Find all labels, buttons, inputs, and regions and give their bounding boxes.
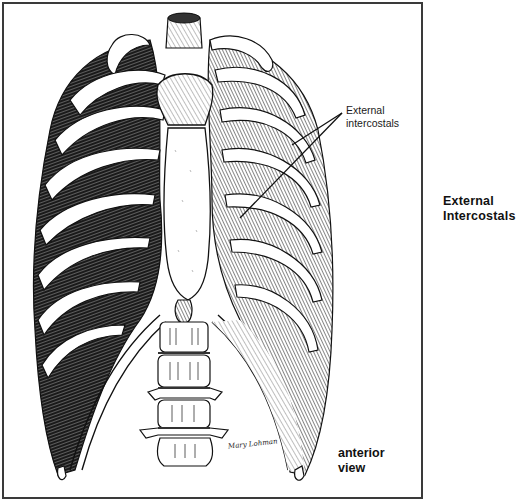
rib-tips [58,466,304,480]
vertebral-column [140,322,228,466]
left-rib-mass [33,40,161,475]
callout-line-1: External [346,104,399,117]
view-label-line-2: view [338,461,385,476]
callout-label-external-intercostals: External intercostals [346,104,399,130]
callout-line-2: intercostals [346,117,399,130]
figure-title: External Intercostals [443,194,516,224]
view-label-line-1: anterior [338,446,385,461]
ribcage-illustration [0,0,516,502]
manubrium [157,74,213,125]
sternum [164,128,210,300]
xiphoid [175,300,192,324]
figure-title-line-1: External [443,194,516,209]
view-label: anterior view [338,446,385,476]
trachea [166,13,202,48]
figure-title-line-2: Intercostals [443,209,516,224]
